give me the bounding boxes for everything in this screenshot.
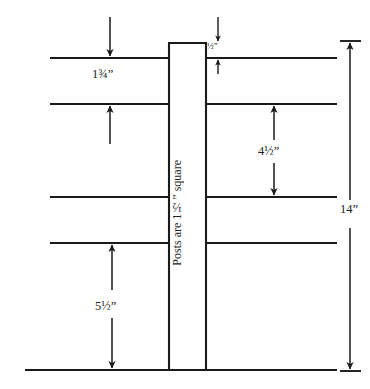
rails-left-group: [50, 58, 169, 243]
dimension-label-bottom-gap: 5½”: [95, 300, 116, 313]
post-note-label: Posts are 1½” square: [170, 160, 206, 266]
dimension-label-post-top-offset: ½”: [207, 42, 218, 51]
dimension-label-middle-gap: 4½”: [258, 145, 279, 158]
dimension-label-top-rail-gap: 1¾”: [92, 68, 113, 81]
dimension-label-overall-height: 14”: [340, 203, 358, 216]
fence-dimension-diagram: 1¾” ½” 4½” 5½” 14” Posts are 1½” square: [0, 0, 370, 389]
